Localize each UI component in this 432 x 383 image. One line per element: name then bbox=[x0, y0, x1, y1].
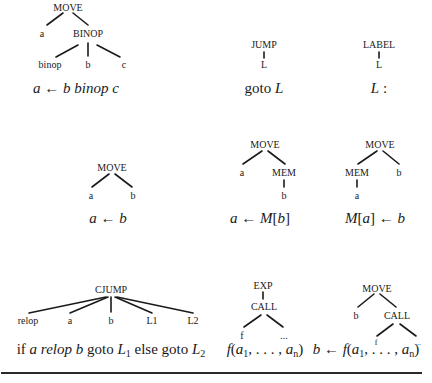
node-b: b bbox=[131, 191, 136, 201]
subscript: 2 bbox=[200, 348, 205, 359]
bottom-rule bbox=[1, 372, 422, 374]
var: c bbox=[112, 80, 119, 96]
ellipsis: , . . . , bbox=[248, 341, 286, 357]
var: b bbox=[63, 80, 71, 96]
var: b bbox=[76, 341, 84, 357]
var: binop bbox=[74, 80, 108, 96]
var: a bbox=[236, 341, 244, 357]
var: relop bbox=[41, 341, 72, 357]
caption-move-call: b ← f(a1, . . . , an) bbox=[313, 341, 420, 357]
var: a bbox=[230, 210, 238, 226]
edge bbox=[400, 324, 416, 336]
node-mem: MEM bbox=[345, 168, 369, 178]
var: L bbox=[275, 80, 283, 96]
caption-move-binop: a ← b binop c bbox=[33, 80, 119, 96]
node-call: CALL bbox=[251, 302, 277, 312]
caption-move-load: a ← M[b] bbox=[230, 210, 290, 226]
node-a: a bbox=[89, 191, 93, 201]
var: a bbox=[33, 80, 41, 96]
node-mem: MEM bbox=[272, 168, 296, 178]
node-args: ... bbox=[280, 331, 288, 341]
keyword: goto bbox=[87, 341, 114, 357]
var: a bbox=[352, 341, 360, 357]
edge bbox=[92, 174, 109, 187]
caption-move-simple: a ← b bbox=[89, 210, 127, 226]
node-f: f bbox=[240, 331, 243, 341]
edge bbox=[97, 45, 120, 57]
node-label: LABEL bbox=[363, 40, 395, 50]
node-move: MOVE bbox=[53, 3, 82, 13]
var: a bbox=[30, 341, 38, 357]
var: M bbox=[345, 210, 358, 226]
var: L bbox=[117, 341, 125, 357]
node-move: MOVE bbox=[362, 284, 391, 294]
edge bbox=[244, 315, 261, 327]
edge bbox=[29, 297, 106, 313]
caption-exp-call: f(a1, . . . , an) bbox=[227, 341, 304, 357]
var: a bbox=[402, 341, 410, 357]
node-b: b bbox=[397, 168, 402, 178]
node-a: a bbox=[240, 168, 244, 178]
var: b bbox=[398, 210, 406, 226]
node-c: c bbox=[122, 60, 126, 70]
edge bbox=[358, 294, 374, 307]
node-L2: L2 bbox=[187, 316, 198, 326]
var: M bbox=[260, 210, 273, 226]
arrow: ← bbox=[101, 210, 116, 226]
edge bbox=[73, 13, 88, 25]
edge bbox=[358, 151, 377, 164]
caption-label: L : bbox=[371, 80, 387, 96]
arrow: ← bbox=[44, 80, 59, 96]
var: L bbox=[192, 341, 200, 357]
subscript: 1 bbox=[126, 348, 131, 359]
edge bbox=[70, 297, 108, 313]
node-b: b bbox=[109, 316, 114, 326]
caption-jump: goto L bbox=[245, 80, 284, 96]
node-binop: BINOP bbox=[73, 29, 103, 39]
bracket: ] bbox=[285, 210, 290, 226]
edge bbox=[47, 13, 63, 25]
caption-move-store: M[a] ← b bbox=[345, 210, 405, 226]
node-a: a bbox=[68, 316, 72, 326]
paren: ) bbox=[298, 341, 303, 357]
edge bbox=[380, 294, 396, 307]
node-relop: relop bbox=[18, 316, 39, 326]
node-move: MOVE bbox=[365, 140, 394, 150]
var: a bbox=[363, 210, 371, 226]
keyword: if bbox=[17, 341, 26, 357]
node-L1: L1 bbox=[146, 316, 157, 326]
node-b: b bbox=[354, 311, 359, 321]
node-L: L bbox=[376, 60, 382, 70]
keyword: else bbox=[134, 341, 157, 357]
edge bbox=[117, 297, 193, 313]
node-b: b bbox=[282, 191, 287, 201]
paren: ) bbox=[414, 341, 419, 357]
var: a bbox=[89, 210, 97, 226]
keyword: goto bbox=[245, 80, 272, 96]
edge bbox=[243, 151, 262, 164]
var: b bbox=[119, 210, 127, 226]
edge bbox=[115, 174, 132, 187]
var: a bbox=[286, 341, 294, 357]
bracket: ] bbox=[370, 210, 375, 226]
edge bbox=[383, 151, 399, 164]
node-cjump: CJUMP bbox=[95, 285, 127, 295]
node-a: a bbox=[355, 191, 359, 201]
node-L: L bbox=[261, 60, 267, 70]
node-call: CALL bbox=[384, 311, 410, 321]
ellipsis: , . . . , bbox=[364, 341, 402, 357]
colon: : bbox=[383, 80, 387, 96]
node-move: MOVE bbox=[97, 163, 126, 173]
edge bbox=[56, 45, 78, 57]
edge bbox=[268, 151, 285, 164]
var: b bbox=[278, 210, 286, 226]
var: b bbox=[313, 341, 321, 357]
node-exp: EXP bbox=[254, 281, 273, 291]
edge bbox=[115, 297, 152, 313]
node-jump: JUMP bbox=[251, 40, 277, 50]
node-binop-op: binop bbox=[39, 60, 62, 70]
arrow: ← bbox=[241, 210, 256, 226]
tree-edges bbox=[0, 0, 432, 383]
edge bbox=[377, 324, 393, 336]
node-move: MOVE bbox=[250, 140, 279, 150]
